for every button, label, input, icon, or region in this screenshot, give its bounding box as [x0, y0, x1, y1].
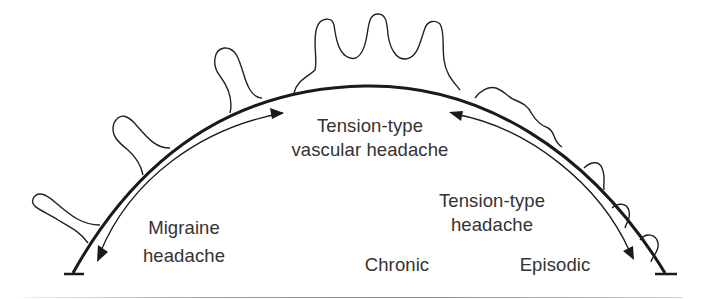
bottom-rule — [22, 297, 682, 298]
label-line: Migraine — [136, 217, 232, 239]
label-tension-type-headache: Tension-type headache — [422, 190, 562, 236]
label-line: headache — [422, 214, 562, 236]
label-line: Tension-type — [300, 115, 440, 137]
tension-type-arrow — [449, 111, 634, 260]
label-episodic: Episodic — [510, 254, 600, 276]
label-line: Tension-type — [422, 190, 562, 212]
label-chronic: Chronic — [352, 254, 442, 276]
label-line: vascular headache — [270, 139, 470, 161]
label-tension-type-vascular: Tension-type vascular headache — [300, 115, 440, 161]
label-migraine-headache: Migraine headache — [136, 217, 232, 267]
label-line: headache — [136, 245, 232, 267]
arrowhead-icon — [449, 111, 463, 121]
arrowhead-icon — [270, 108, 284, 119]
